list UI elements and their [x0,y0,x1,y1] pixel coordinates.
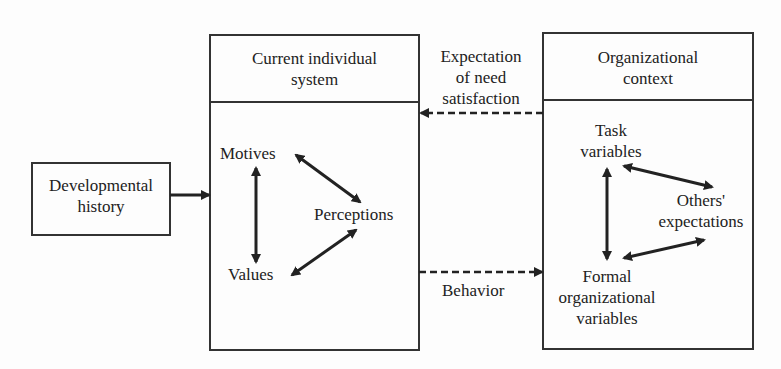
arrow-values-perceptions [292,230,356,275]
others-expectations-label: Others' expectations [648,190,754,232]
diagram: Developmental history Current individual… [0,0,781,369]
expectation-label: Expectation of need satisfaction [425,46,537,109]
arrow-motives-perceptions [296,155,360,202]
formal-variables-label: Formal organizational variables [549,266,665,329]
behavior-label: Behavior [442,280,504,301]
arrow-task-others [624,166,712,187]
individual-title: Current individual system [210,48,419,90]
values-label: Values [228,264,273,285]
developmental-label: Developmental history [32,175,170,217]
arrow-formal-others [624,240,704,258]
task-variables-label: Task variables [566,120,656,162]
perceptions-label: Perceptions [314,204,393,225]
organizational-title: Organizational context [543,47,753,89]
motives-label: Motives [220,143,276,164]
